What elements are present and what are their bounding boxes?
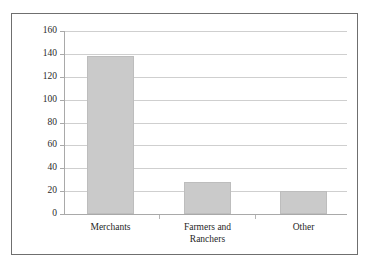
y-tick-label: 80: [48, 118, 58, 128]
plot-area: 160 140 120 100 80 60: [64, 31, 347, 231]
chart-figure-frame: 160 140 120 100 80 60: [11, 13, 358, 255]
x-axis-label-other: Other: [256, 221, 352, 233]
x-axis-label-farmers-ranchers: Farmers and Ranchers: [160, 221, 256, 245]
y-tick-mark: [60, 214, 64, 215]
gridline-0: [64, 214, 347, 215]
y-tick-label: 160: [43, 26, 57, 36]
y-tick-label: 140: [43, 49, 57, 59]
bar-other[interactable]: [280, 191, 327, 214]
bar-merchants[interactable]: [87, 56, 134, 214]
y-tick-label: 20: [48, 186, 58, 196]
y-tick-label: 0: [52, 209, 57, 219]
x-axis-label-merchants: Merchants: [63, 221, 159, 233]
y-tick-label: 60: [48, 141, 58, 151]
y-tick-label: 100: [43, 95, 57, 105]
bar-farmers-ranchers[interactable]: [184, 182, 231, 214]
x-axis-tick-2: [255, 215, 256, 219]
y-tick-label: 40: [48, 164, 58, 174]
x-axis-tick-1: [159, 215, 160, 219]
y-tick-label: 120: [43, 72, 57, 82]
bar-series: [64, 31, 347, 214]
